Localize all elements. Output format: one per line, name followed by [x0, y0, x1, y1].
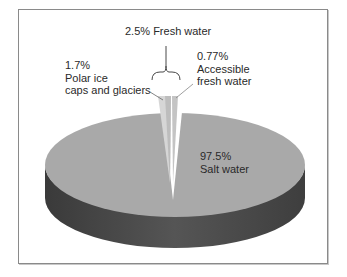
access-leader — [176, 84, 193, 98]
access-line2: fresh water — [197, 75, 251, 88]
access-line1: Accessible — [197, 63, 251, 76]
fresh-water-brace — [152, 66, 180, 80]
pie-chart-3d — [0, 0, 347, 277]
salt-line: Salt water — [200, 163, 249, 176]
access-pct: 0.77% — [197, 50, 251, 63]
polar-ice-label: 1.7% Polar ice caps and glaciers — [65, 59, 151, 97]
polar-pct: 1.7% — [65, 59, 151, 72]
salt-pct: 97.5% — [200, 150, 249, 163]
fresh-water-label: 2.5% Fresh water — [125, 25, 211, 38]
polar-line2: caps and glaciers — [65, 84, 151, 97]
salt-water-label: 97.5% Salt water — [200, 150, 249, 175]
polar-line1: Polar ice — [65, 72, 151, 85]
accessible-fresh-label: 0.77% Accessible fresh water — [197, 50, 251, 88]
